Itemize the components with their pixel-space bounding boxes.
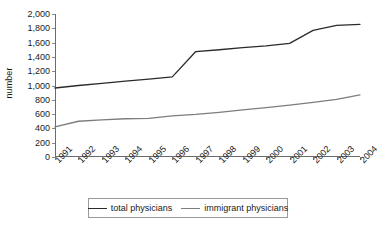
y-axis-title: number — [4, 53, 14, 113]
legend-line-swatch — [88, 208, 107, 209]
x-axis-tick-labels: 1991199219931994199519961997199819992000… — [55, 158, 360, 194]
legend-line-swatch — [181, 208, 200, 209]
series-line-2 — [55, 95, 360, 127]
y-tick-label: 0 — [14, 152, 50, 162]
y-axis-tick-labels: 02004006008001,0001,2001,4001,6001,8002,… — [14, 9, 50, 161]
legend-label: immigrant physicians — [204, 203, 288, 213]
legend-label: total physicians — [111, 203, 173, 213]
series-line-1 — [55, 24, 360, 88]
y-tick-label: 1,000 — [14, 81, 50, 91]
y-tick-label: 1,800 — [14, 23, 50, 33]
y-tick-label: 800 — [14, 95, 50, 105]
plot-area — [55, 14, 360, 157]
legend-entry: total physicians — [88, 203, 173, 213]
y-tick-label: 200 — [14, 138, 50, 148]
y-tick-label: 400 — [14, 123, 50, 133]
series-lines — [55, 14, 360, 157]
legend-entry: immigrant physicians — [181, 203, 288, 213]
y-tick-label: 1,200 — [14, 66, 50, 76]
y-tick-label: 1,400 — [14, 52, 50, 62]
y-tick-label: 1,600 — [14, 38, 50, 48]
x-tick-label: 2004 — [358, 144, 379, 165]
y-tick-label: 2,000 — [14, 9, 50, 19]
chart-legend: total physiciansimmigrant physicians — [88, 198, 288, 218]
y-tick-label: 600 — [14, 109, 50, 119]
